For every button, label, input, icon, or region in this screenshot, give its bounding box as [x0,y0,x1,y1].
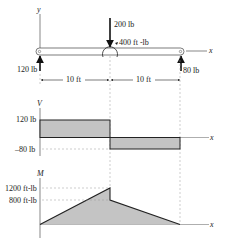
point-load-label: 200 lb [114,20,134,29]
dimension-right-label: 10 ft [136,75,152,84]
y-axis-label: y [36,5,41,14]
v-axis-label: V [37,99,43,108]
shear-x-axis-label: x [209,133,214,142]
shear-positive-region [40,120,110,138]
beam [36,48,184,55]
couple-moment-arrowhead-icon [115,42,118,45]
dimension-left-label: 10 ft [66,75,82,84]
moment-peak-label: 1200 ft-lb [5,184,37,193]
free-body-diagram: y x 200 lb 400 ft -lb 120 lb 80 lb 10 ft… [17,5,213,84]
m-axis-label: M [36,169,45,178]
x-axis-label: x [208,46,213,55]
shear-min-label: –80 lb [14,145,35,154]
right-reaction-label: 80 lb [183,66,199,75]
moment-diagram: M x 1200 ft-lb 800 ft-lb [5,169,214,238]
moment-drop-label: 800 ft-lb [9,196,37,205]
shear-max-label: 120 lb [16,115,36,124]
shear-diagram: V x 120 lb –80 lb [14,99,214,156]
moment-x-axis-label: x [209,220,214,229]
left-reaction-label: 120 lb [17,65,37,74]
beam-diagram: y x 200 lb 400 ft -lb 120 lb 80 lb 10 ft… [0,0,225,245]
couple-moment-label: 400 ft -lb [119,38,149,47]
shear-negative-region [110,138,180,150]
